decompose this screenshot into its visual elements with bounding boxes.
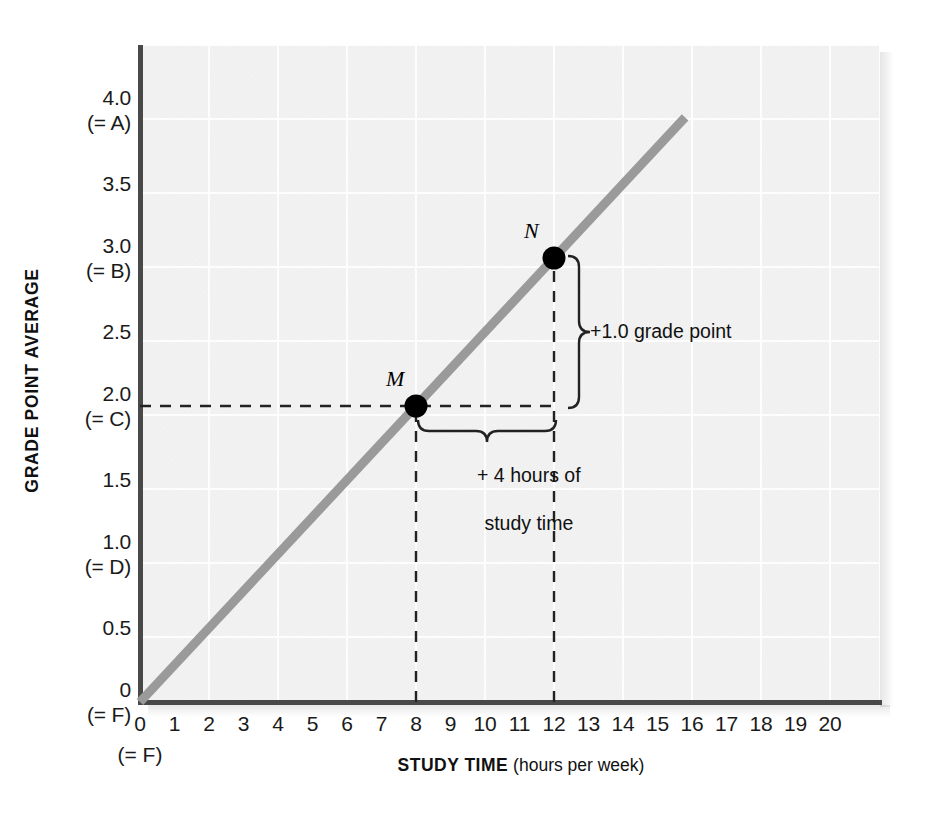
y-tick-value: 1.5 xyxy=(102,468,131,491)
chart-figure: 4.0(= A)3.53.0(= B)2.52.0(= C)1.51.0(= D… xyxy=(0,0,932,818)
y-tick-grade: (= F) xyxy=(11,702,131,727)
y-tick-grade: (= A) xyxy=(11,110,131,135)
x-axis-title-unit: (hours per week) xyxy=(513,755,644,775)
y-tick-label: 0.5 xyxy=(11,615,131,640)
y-tick-value: 2.0 xyxy=(102,382,131,405)
point-label-m: M xyxy=(386,366,404,392)
y-tick-value: 3.5 xyxy=(102,172,131,195)
y-tick-labels: 4.0(= A)3.53.0(= B)2.52.0(= C)1.51.0(= D… xyxy=(0,0,131,818)
y-tick-value: 0.5 xyxy=(102,616,131,639)
y-tick-value: 0 xyxy=(120,678,131,701)
y-tick-label: 0(= F) xyxy=(11,677,131,727)
x-axis-title-main: STUDY TIME xyxy=(398,755,509,775)
y-axis-spine xyxy=(138,45,143,705)
annotation-run-line1: + 4 hours of xyxy=(477,464,581,486)
gridlines xyxy=(140,45,880,702)
y-tick-value: 2.5 xyxy=(102,320,131,343)
y-tick-value: 4.0 xyxy=(102,86,131,109)
annotation-run-line2: study time xyxy=(484,512,573,534)
x-axis-spine xyxy=(138,700,882,705)
y-axis-title: GRADE POINT AVERAGE xyxy=(22,191,43,571)
annotation-run-text: + 4 hours of study time xyxy=(428,439,608,559)
x-tick-label: 20 xyxy=(808,712,852,736)
plot-area xyxy=(140,45,880,702)
point-label-n: N xyxy=(524,218,539,244)
y-tick-value: 1.0 xyxy=(102,530,131,553)
panel-shadow-right xyxy=(880,52,894,707)
y-tick-value: 3.0 xyxy=(102,234,131,257)
y-tick-label: 4.0(= A) xyxy=(11,85,131,135)
annotation-rise-text: +1.0 grade point xyxy=(590,319,732,343)
x-axis-title: STUDY TIME (hours per week) xyxy=(0,755,932,776)
